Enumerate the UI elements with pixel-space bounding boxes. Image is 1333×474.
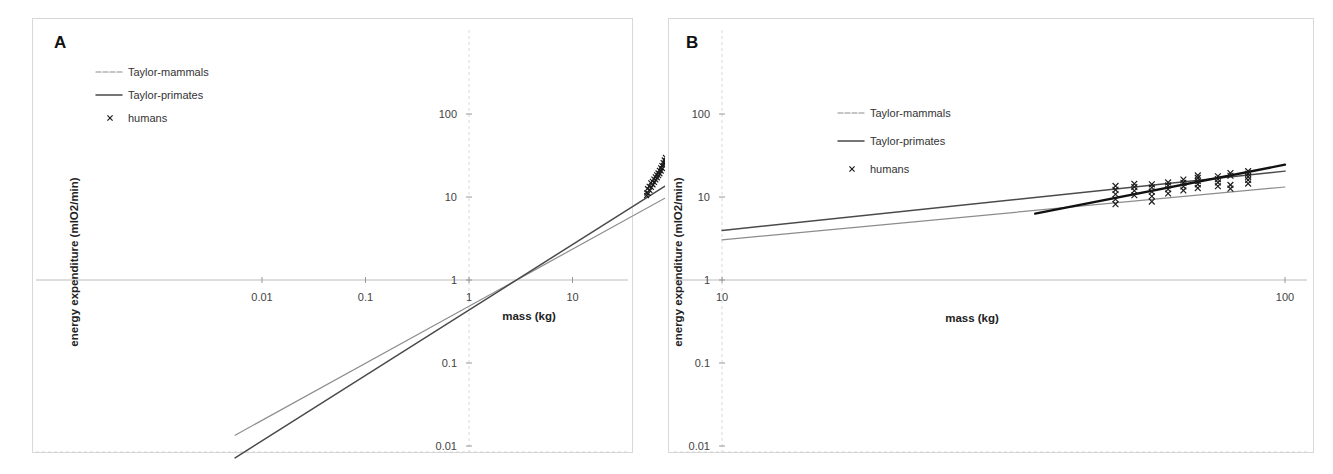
series-line-taylor-mammals <box>235 78 665 435</box>
x-tick-label: 10 <box>716 291 728 303</box>
legend-label: Taylor-primates <box>128 89 204 101</box>
panel-b-chart: 101000.010.1110100mass (kg)energy expend… <box>660 0 1333 474</box>
x-axis-title: mass (kg) <box>945 312 999 324</box>
panel-b: 101000.010.1110100mass (kg)energy expend… <box>660 0 1333 474</box>
legend: Taylor-mammalsTaylor-primateshumans <box>96 66 209 124</box>
y-tick-label: 0.1 <box>695 357 710 369</box>
y-tick-label: 10 <box>445 191 457 203</box>
legend-label: humans <box>870 163 910 175</box>
legend-label: Taylor-primates <box>870 135 946 147</box>
x-tick-label: 1 <box>466 291 472 303</box>
y-axis-title: energy expenditure (mlO2/min) <box>672 177 684 347</box>
panel-letter: A <box>54 33 66 52</box>
y-tick-label: 0.01 <box>436 440 457 452</box>
legend: Taylor-mammalsTaylor-primateshumans <box>838 107 951 175</box>
x-tick-label: 0.1 <box>358 291 373 303</box>
legend-label: Taylor-mammals <box>128 66 209 78</box>
legend-label: humans <box>128 112 168 124</box>
y-tick-label: 100 <box>439 108 457 120</box>
y-axis-title: energy expenditure (mlO2/min) <box>68 177 80 347</box>
y-tick-label: 0.1 <box>442 357 457 369</box>
y-tick-label: 0.01 <box>689 440 710 452</box>
figure-container: 0.010.11101001000100000.010.1110100mass … <box>0 0 1333 474</box>
x-tick-label: 0.01 <box>251 291 272 303</box>
x-tick-label: 10 <box>566 291 578 303</box>
y-tick-label: 10 <box>698 191 710 203</box>
legend-label: Taylor-mammals <box>870 107 951 119</box>
series-line-taylor-mammals <box>722 187 1285 240</box>
y-tick-label: 100 <box>692 108 710 120</box>
x-tick-label: 100 <box>1276 291 1294 303</box>
panel-letter: B <box>686 33 698 52</box>
panel-a-chart: 0.010.11101001000100000.010.1110100mass … <box>0 0 665 474</box>
panel-a: 0.010.11101001000100000.010.1110100mass … <box>0 0 665 474</box>
y-tick-label: 1 <box>451 274 457 286</box>
x-axis-title: mass (kg) <box>502 310 556 322</box>
y-tick-label: 1 <box>704 274 710 286</box>
